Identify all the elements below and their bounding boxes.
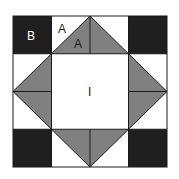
quilt-block-diagram: B A A I xyxy=(0,0,179,179)
label-center: I xyxy=(88,85,91,99)
label-triangle-light: A xyxy=(58,22,66,36)
corner-square-bottom-left xyxy=(13,129,52,167)
corner-square-top-right xyxy=(129,16,168,54)
label-corner-square: B xyxy=(27,29,35,43)
label-triangle-dark: A xyxy=(74,37,82,51)
corner-square-bottom-right xyxy=(129,129,168,167)
